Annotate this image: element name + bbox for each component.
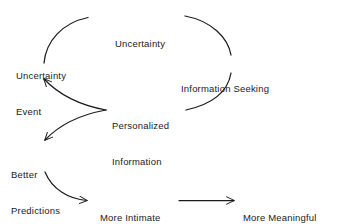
node-more-intimate-communication: More Intimate Communication xyxy=(100,188,168,224)
node-uncertainty-event-line-2: Event xyxy=(16,106,66,118)
node-uncertainty-line-1: Uncertainty xyxy=(115,38,165,50)
node-more-intimate-communication-line-1: More Intimate xyxy=(100,212,168,224)
node-better-predictions-line-2: Predictions xyxy=(11,205,60,217)
node-better-predictions: Better Predictions xyxy=(11,145,60,224)
node-personalized-information-line-1: Personalized xyxy=(112,120,169,132)
uncertainty-reduction-diagram: Uncertainty Information Seeking Uncertai… xyxy=(0,0,337,224)
node-personalized-information: Personalized Information xyxy=(112,96,169,192)
node-better-predictions-line-1: Better xyxy=(11,169,60,181)
node-uncertainty-event-line-1: Uncertainty xyxy=(16,70,66,82)
node-personalized-information-line-2: Information xyxy=(112,156,169,168)
node-uncertainty: Uncertainty xyxy=(115,14,165,74)
node-uncertainty-event: Uncertainty Event xyxy=(16,46,66,142)
node-more-meaningful-relationship-line-1: More Meaningful xyxy=(243,212,317,224)
node-more-meaningful-relationship: More Meaningful Relationship xyxy=(243,188,317,224)
connector-uncertainty-to-information-seeking xyxy=(185,16,231,55)
node-information-seeking-line-1: Information Seeking xyxy=(181,83,269,95)
node-information-seeking: Information Seeking xyxy=(181,59,269,119)
